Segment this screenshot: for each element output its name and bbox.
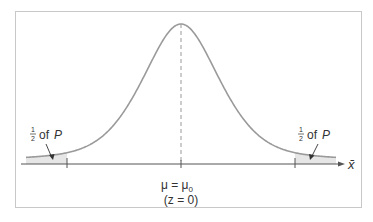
distribution-diagram: 1 2 of P 1 2 of P x̄ μ = μ0 (z = 0) — [0, 0, 373, 222]
z-zero-label: (z = 0) — [164, 193, 198, 207]
right-of-text: of — [307, 128, 318, 142]
x-bar-axis-label: x̄ — [347, 157, 355, 172]
mean-label: μ = μ0 — [161, 178, 194, 194]
left-of-text: of — [39, 128, 50, 142]
x-axis-arrowhead — [338, 162, 345, 167]
right-p-variable: P — [322, 128, 330, 142]
left-tail-label: 1 2 of P — [30, 126, 62, 142]
left-p-variable: P — [54, 128, 62, 142]
right-fraction-numerator: 1 — [299, 126, 303, 133]
z-label-text: (z = 0) — [164, 193, 198, 207]
mean-label-text: μ = μ — [161, 178, 189, 192]
right-tail-label: 1 2 of P — [298, 126, 330, 142]
left-fraction-numerator: 1 — [31, 126, 35, 133]
left-fraction-denominator: 2 — [31, 135, 35, 142]
right-fraction-denominator: 2 — [299, 135, 303, 142]
